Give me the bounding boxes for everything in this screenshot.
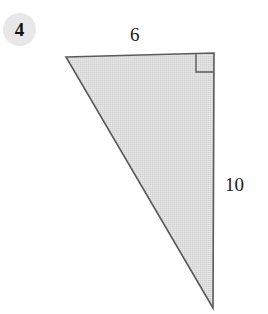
- problem-number-badge: 4: [3, 13, 36, 46]
- geometry-figure: 4 6 10: [0, 0, 268, 314]
- problem-number-label: 4: [15, 20, 25, 40]
- right-triangle-shape: [66, 53, 214, 308]
- side-label-right: 10: [225, 175, 244, 194]
- side-label-top: 6: [130, 25, 140, 44]
- triangle-diagram: [0, 0, 268, 314]
